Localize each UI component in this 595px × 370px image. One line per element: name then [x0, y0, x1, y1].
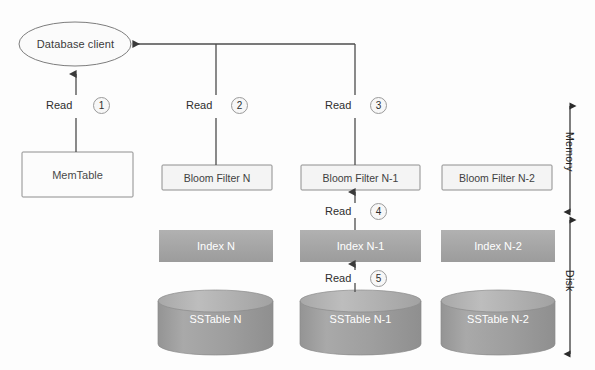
diagram-canvas: Database client MemTable Bloom Filter N … — [0, 0, 595, 370]
database-client-ellipse[interactable] — [19, 22, 131, 66]
sstable-n-2-cylinder[interactable] — [441, 290, 555, 355]
read-label-step-5: Read — [325, 272, 351, 284]
step-badge-5: 5 — [370, 270, 387, 287]
index-n-1-box[interactable] — [300, 230, 421, 262]
sstable-n-1-cylinder[interactable] — [300, 290, 421, 355]
step-badge-4: 4 — [370, 203, 387, 220]
read-label-step-4: Read — [325, 205, 351, 217]
step-badge-2: 2 — [231, 97, 248, 114]
disk-tier-label: Disk — [564, 270, 576, 292]
bloom-filter-n-2-box[interactable] — [442, 165, 552, 190]
memory-tier-label: Memory — [564, 132, 576, 172]
read-label-step-3: Read — [325, 99, 351, 111]
index-n-box[interactable] — [159, 230, 273, 262]
diagram-vector-layer — [0, 0, 595, 370]
bloom-filter-n-1-box[interactable] — [301, 165, 420, 190]
index-n-2-box[interactable] — [441, 230, 555, 262]
memtable-box[interactable] — [22, 152, 133, 197]
sstable-n-cylinder[interactable] — [158, 290, 273, 355]
bloom-filter-n-box[interactable] — [162, 165, 272, 190]
read-label-step-2: Read — [186, 99, 212, 111]
step-badge-3: 3 — [370, 97, 387, 114]
step-badge-1: 1 — [93, 97, 110, 114]
read-label-step-1: Read — [46, 99, 72, 111]
